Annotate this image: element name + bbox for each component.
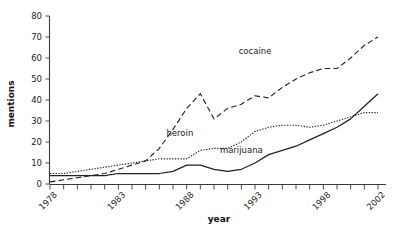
y-tick-label-60: 60 <box>31 53 42 63</box>
y-tick-label-50: 50 <box>31 74 42 84</box>
y-axis-tick-labels: 01020304050607080 <box>31 11 42 189</box>
chart-background <box>0 0 400 231</box>
y-tick-label-10: 10 <box>31 158 42 168</box>
y-tick-label-0: 0 <box>37 179 42 189</box>
series-label-cocaine: cocaine <box>239 46 272 56</box>
x-axis-title: year <box>208 214 231 224</box>
drug-mentions-line-chart: 01020304050607080 1978198319881993199820… <box>0 0 400 231</box>
chart-canvas: 01020304050607080 1978198319881993199820… <box>0 0 400 231</box>
y-tick-label-80: 80 <box>31 11 42 21</box>
y-tick-label-40: 40 <box>31 95 42 105</box>
y-tick-label-30: 30 <box>31 116 42 126</box>
series-label-marijuana: marijuana <box>220 145 263 155</box>
series-label-heroin: heroin <box>166 128 193 138</box>
y-tick-label-20: 20 <box>31 137 42 147</box>
y-axis-title: mentions <box>6 80 16 127</box>
y-tick-label-70: 70 <box>31 32 42 42</box>
